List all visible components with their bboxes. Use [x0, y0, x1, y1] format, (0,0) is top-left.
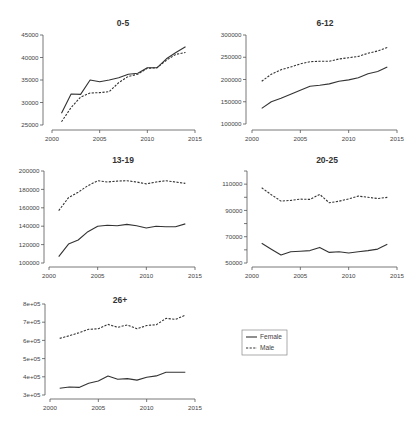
- y-tick-label: 200000: [221, 76, 242, 83]
- y-tick-label: 100000: [19, 259, 40, 266]
- y-tick-label: 70000: [225, 233, 243, 240]
- panel-6-12: 6-12100000150000200000250000300000200020…: [221, 18, 405, 142]
- y-tick-label: 250000: [221, 53, 242, 60]
- y-tick-label: 8e+05: [23, 300, 41, 307]
- y-tick-label: 3e+05: [23, 391, 41, 398]
- y-tick-label: 6e+05: [23, 337, 41, 344]
- series-line-male: [60, 315, 186, 338]
- x-tick-label: 2005: [293, 135, 307, 142]
- y-tick-label: 25000: [21, 121, 39, 128]
- legend-label-male: Male: [260, 344, 275, 351]
- x-tick-label: 2005: [93, 135, 107, 142]
- x-tick-label: 2010: [140, 135, 154, 142]
- y-tick-label: 5e+05: [23, 355, 41, 362]
- y-tick-label: 300000: [221, 31, 242, 38]
- series-line-male: [62, 53, 186, 122]
- y-tick-label: 150000: [221, 98, 242, 105]
- x-tick-label: 2005: [293, 272, 307, 279]
- panel-0-5: 0-52500030000350004000045000200020052010…: [21, 18, 202, 142]
- x-tick-label: 2015: [188, 135, 202, 142]
- series-line-male: [262, 48, 388, 82]
- x-tick-label: 2015: [390, 135, 404, 142]
- x-tick-label: 2015: [188, 404, 202, 411]
- panel-title: 6-12: [316, 18, 333, 28]
- series-line-female: [262, 67, 388, 108]
- series-line-female: [60, 372, 186, 388]
- y-tick-label: 50000: [225, 259, 243, 266]
- panel-title: 20-25: [316, 155, 338, 165]
- y-tick-label: 140000: [19, 222, 40, 229]
- x-tick-label: 2005: [91, 404, 105, 411]
- y-tick-label: 90000: [225, 207, 243, 214]
- panel-title: 13-19: [112, 155, 134, 165]
- series-line-female: [59, 224, 186, 257]
- y-tick-label: 40000: [21, 54, 39, 61]
- panels: 0-52500030000350004000045000200020052010…: [19, 18, 405, 411]
- legend-label-female: Female: [260, 333, 282, 340]
- y-tick-label: 100000: [221, 120, 242, 127]
- y-tick-label: 30000: [21, 99, 39, 106]
- panel-13-19: 13-1910000012000014000016000018000020000…: [19, 155, 203, 279]
- y-tick-label: 35000: [21, 76, 39, 83]
- panel-title: 0-5: [117, 18, 130, 28]
- panel-20-25: 20-2550000700009000011000020002005201020…: [222, 155, 404, 279]
- y-tick-label: 110000: [222, 180, 243, 187]
- y-tick-label: 180000: [19, 186, 40, 193]
- legend: Female Male: [242, 330, 287, 355]
- x-tick-label: 2010: [139, 272, 153, 279]
- y-tick-label: 160000: [19, 204, 40, 211]
- y-tick-label: 4e+05: [23, 373, 41, 380]
- panel-title: 26+: [113, 295, 127, 305]
- x-tick-label: 2015: [188, 272, 202, 279]
- x-tick-label: 2010: [342, 135, 356, 142]
- x-tick-label: 2010: [342, 272, 356, 279]
- x-tick-label: 2000: [245, 135, 259, 142]
- x-tick-label: 2000: [45, 135, 59, 142]
- x-tick-label: 2010: [140, 404, 154, 411]
- y-tick-label: 200000: [19, 167, 40, 174]
- y-tick-label: 120000: [19, 241, 40, 248]
- series-line-male: [262, 188, 388, 203]
- x-tick-label: 2005: [91, 272, 105, 279]
- panel-26-: 26+3e+054e+055e+056e+057e+058e+052000200…: [23, 295, 202, 411]
- x-tick-label: 2015: [390, 272, 404, 279]
- x-tick-label: 2000: [43, 404, 57, 411]
- y-tick-label: 7e+05: [23, 318, 41, 325]
- x-tick-label: 2000: [245, 272, 259, 279]
- series-line-male: [59, 181, 186, 211]
- y-tick-label: 45000: [21, 31, 39, 38]
- small-multiples-chart: 0-52500030000350004000045000200020052010…: [0, 0, 418, 428]
- figure: 0-52500030000350004000045000200020052010…: [0, 0, 418, 428]
- x-tick-label: 2000: [42, 272, 56, 279]
- series-line-female: [262, 243, 388, 255]
